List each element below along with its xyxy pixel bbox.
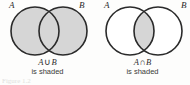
caption-expression-union: A∪B <box>0 58 95 67</box>
caption-union: A∪B is shaded <box>0 58 95 76</box>
venn-diagram-figure: A B A∪B is shaded <box>0 0 190 85</box>
caption-expression-intersection: A∩B <box>95 58 190 67</box>
expr-right-set: B <box>52 57 57 67</box>
expr-operator-union: ∪ <box>44 57 52 67</box>
expr-left-set: A <box>38 57 43 67</box>
expr-operator-intersection: ∩ <box>139 57 146 67</box>
caption-intersection: A∩B is shaded <box>95 58 190 76</box>
expr-right-set: B <box>146 57 151 67</box>
set-label-b: B <box>181 1 187 10</box>
figure-caption-partial: Figure 1.2 <box>2 77 112 85</box>
venn-panel-union: A B A∪B is shaded <box>0 0 95 85</box>
venn-panel-intersection: A B A∩B is shaded <box>95 0 190 85</box>
caption-shaded-note-union: is shaded <box>0 67 95 76</box>
caption-shaded-note-intersection: is shaded <box>95 67 190 76</box>
set-label-a: A <box>9 1 15 10</box>
set-label-b: B <box>79 1 85 10</box>
set-label-a: A <box>104 1 110 10</box>
